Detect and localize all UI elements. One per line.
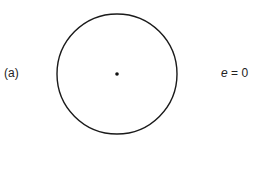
eccentricity-value: 0 [241,66,248,80]
panel-label: (a) [4,66,19,80]
equals-sign: = [228,66,242,80]
center-focus-dot [115,72,119,76]
orbit-figure: (a) e = 0 [0,0,261,170]
eccentricity-label: e = 0 [221,66,248,80]
eccentricity-variable: e [221,66,228,80]
circle-diagram [0,0,261,170]
